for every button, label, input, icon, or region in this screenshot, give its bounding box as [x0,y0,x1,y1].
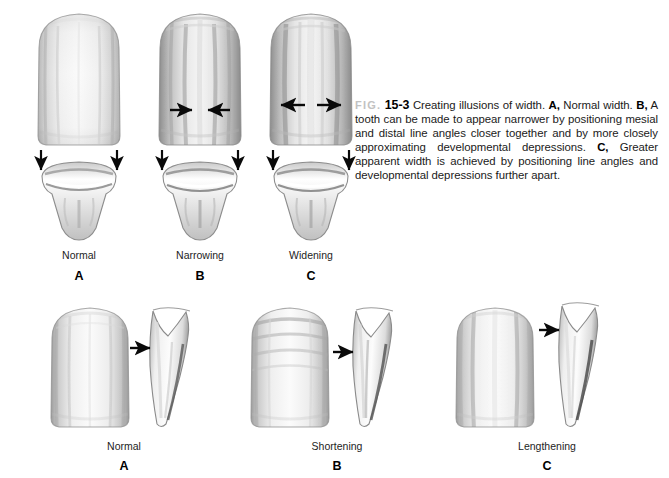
bottom-panel-b-facial-tooth [249,308,331,428]
top-panel-c-label: Widening [289,249,333,261]
bottom-panel-a-label: Normal [107,440,141,452]
top-panel-a-facial-tooth [38,14,120,146]
bottom-panel-c-letter: C [542,459,551,473]
bottom-panel-c-proximal-view [539,303,599,427]
bottom-panel-a-facial-tooth [51,308,129,428]
top-panel-b-facial-tooth [159,14,241,146]
top-panel-c-facial-tooth [270,14,352,146]
top-panel-b-incisal-view [163,162,237,240]
bottom-panel-b-letter: B [332,459,341,473]
top-panel-c-letter: C [306,269,315,283]
illustration-canvas [0,0,669,478]
top-panel-c-incisal-view [274,162,348,240]
top-panel-a-label: Normal [62,249,96,261]
caption-b-marker: B, [636,99,647,111]
top-panel-a-incisal-view [42,162,116,240]
bottom-panel-c-label: Lengthening [518,440,576,452]
caption-text-1: Creating illusions of width. [413,99,549,111]
figure-caption: FIG. 15-3 Creating illusions of width. A… [355,98,658,183]
top-panel-b-label: Narrowing [176,249,224,261]
top-panel-a-letter: A [74,269,83,283]
caption-a-marker: A, [549,99,560,111]
caption-c-marker: C, [597,141,608,153]
bottom-panel-b-proximal-view [333,308,393,427]
bottom-panel-b-label: Shortening [312,440,363,452]
bottom-panel-a-proximal-view [130,308,190,427]
caption-a-text: Normal width. [560,99,636,111]
figure-15-3: FIG. 15-3 Creating illusions of width. A… [0,0,669,478]
fig-label: FIG. [355,99,381,111]
bottom-panel-c-facial-tooth [456,308,534,430]
bottom-panel-a-letter: A [119,459,128,473]
top-panel-b-letter: B [195,269,204,283]
fig-number: 15-3 [385,98,410,112]
